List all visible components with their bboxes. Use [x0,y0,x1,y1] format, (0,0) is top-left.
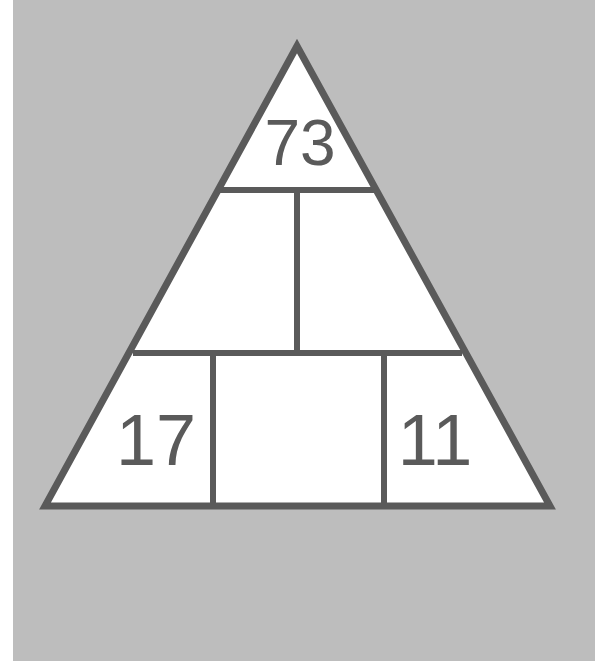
number-pyramid: 73 17 11 [0,0,605,661]
cell-middle-right[interactable] [297,190,460,353]
cell-middle-left[interactable] [136,190,297,353]
top-number: 73 [264,107,335,179]
bottom-left-number: 17 [116,400,196,480]
bottom-right-number: 11 [398,400,473,480]
cell-bottom-center[interactable] [213,353,384,506]
